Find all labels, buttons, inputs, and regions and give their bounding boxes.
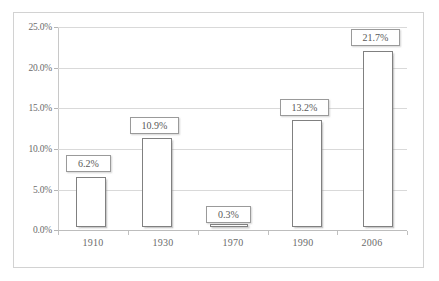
bar-1910 bbox=[76, 177, 106, 227]
x-tick-mark-3 bbox=[268, 231, 269, 235]
gridline-25 bbox=[58, 27, 407, 28]
y-tick-label-5: 5.0% bbox=[10, 185, 52, 195]
x-tick-mark-0 bbox=[58, 231, 59, 235]
y-tick-label-15: 15.0% bbox=[10, 103, 52, 113]
value-label-2006: 21.7% bbox=[351, 29, 400, 46]
value-label-1990: 13.2% bbox=[280, 99, 329, 116]
x-label-1910: 1910 bbox=[58, 237, 128, 248]
x-tick-mark-1 bbox=[128, 231, 129, 235]
gridline-5 bbox=[58, 190, 407, 191]
gridline-20 bbox=[58, 68, 407, 69]
x-label-1990: 1990 bbox=[268, 237, 338, 248]
y-tick-label-10: 10.0% bbox=[10, 144, 52, 154]
gridline-15 bbox=[58, 108, 407, 109]
bar-2006 bbox=[363, 51, 393, 227]
value-label-1970: 0.3% bbox=[206, 206, 251, 223]
y-tick-label-20: 20.0% bbox=[10, 63, 52, 73]
gridline-10 bbox=[58, 149, 407, 150]
value-label-1910: 6.2% bbox=[66, 155, 111, 172]
x-tick-mark-2 bbox=[198, 231, 199, 235]
y-tick-label-25: 25.0% bbox=[10, 22, 52, 32]
plot-area bbox=[58, 27, 407, 230]
x-label-2006: 2006 bbox=[337, 237, 407, 248]
y-axis: 25.0% 20.0% 15.0% 10.0% 5.0% 0.0% bbox=[8, 0, 52, 281]
y-tick-label-0: 0.0% bbox=[10, 225, 52, 235]
bar-1930 bbox=[142, 138, 172, 227]
x-tick-mark-5 bbox=[407, 231, 408, 235]
value-label-1930: 10.9% bbox=[130, 117, 179, 134]
x-label-1930: 1930 bbox=[128, 237, 198, 248]
bar-chart: 25.0% 20.0% 15.0% 10.0% 5.0% 0.0% 6.2% 1… bbox=[0, 0, 439, 281]
gridline-0-baseline bbox=[58, 230, 407, 231]
x-label-1970: 1970 bbox=[198, 237, 268, 248]
x-tick-mark-4 bbox=[337, 231, 338, 235]
bar-1990 bbox=[292, 120, 322, 227]
bar-1970 bbox=[210, 224, 248, 227]
